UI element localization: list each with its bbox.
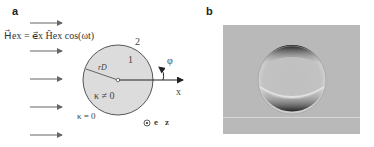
inner-kappa-label: κ ≠ 0 bbox=[94, 90, 115, 101]
region-outer-label: 2 bbox=[135, 36, 140, 47]
outer-kappa-label: κ = 0 bbox=[77, 111, 96, 121]
radius-label: rD bbox=[98, 63, 107, 72]
unit-vector-label: e⃗z bbox=[154, 117, 169, 127]
substrate-line bbox=[223, 117, 360, 118]
x-axis-label: x bbox=[176, 86, 181, 97]
unit-vector-ez-icon bbox=[144, 120, 150, 126]
panel-b-micrograph bbox=[223, 25, 360, 134]
phi-arc bbox=[159, 67, 164, 80]
field-equation: H⃗ex = e⃗x Ĥex cos(ωt) bbox=[4, 30, 94, 41]
phi-label: φ bbox=[167, 55, 173, 66]
region-inner-label: 1 bbox=[128, 54, 133, 65]
